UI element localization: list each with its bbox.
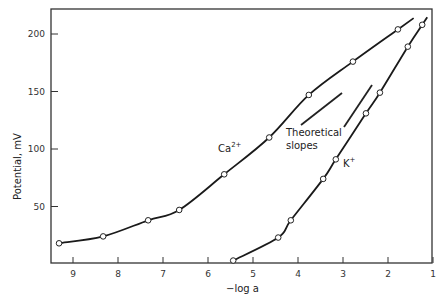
annotation-slopes: slopes bbox=[286, 140, 318, 151]
data-point bbox=[395, 27, 401, 33]
data-point bbox=[320, 176, 326, 182]
x-tick-label: 2 bbox=[385, 269, 391, 279]
data-point bbox=[100, 234, 106, 240]
x-tick-label: 8 bbox=[115, 269, 121, 279]
data-point bbox=[405, 44, 411, 50]
data-point bbox=[333, 157, 339, 163]
data-point bbox=[288, 218, 294, 224]
x-tick-label: 1 bbox=[430, 269, 436, 279]
y-tick-label: 150 bbox=[28, 87, 45, 97]
plot-frame bbox=[51, 9, 432, 263]
y-tick-label: 100 bbox=[28, 144, 45, 154]
y-axis-label: Potential, mV bbox=[12, 133, 23, 200]
data-point bbox=[56, 241, 62, 247]
data-point bbox=[419, 22, 425, 28]
data-point bbox=[230, 258, 236, 264]
x-axis-label: −log a bbox=[226, 283, 259, 294]
x-tick-label: 6 bbox=[205, 269, 211, 279]
data-point bbox=[377, 90, 383, 96]
data-point bbox=[145, 218, 151, 224]
data-point bbox=[363, 111, 369, 117]
annotation-theoretical: Theoretical bbox=[285, 127, 342, 138]
x-tick-label: 5 bbox=[250, 269, 256, 279]
ca-curve bbox=[59, 18, 414, 243]
data-point bbox=[306, 92, 312, 98]
k-curve bbox=[233, 17, 427, 260]
y-tick-label: 50 bbox=[34, 202, 46, 212]
y-tick-label: 200 bbox=[28, 29, 45, 39]
series-label-k: K+ bbox=[343, 156, 356, 169]
data-point bbox=[221, 172, 227, 178]
x-tick-label: 4 bbox=[295, 269, 301, 279]
chart: 987654321 50100150200 Theoretical slopes… bbox=[0, 0, 443, 305]
series-label-ca: Ca2+ bbox=[218, 141, 242, 154]
data-point bbox=[350, 59, 356, 65]
data-series bbox=[56, 17, 427, 263]
x-axis-ticks: 987654321 bbox=[70, 257, 436, 279]
x-tick-label: 9 bbox=[70, 269, 76, 279]
x-tick-label: 3 bbox=[340, 269, 346, 279]
data-point bbox=[275, 235, 281, 241]
x-tick-label: 7 bbox=[160, 269, 166, 279]
y-axis-ticks: 50100150200 bbox=[28, 29, 58, 212]
data-point bbox=[266, 135, 272, 141]
data-point bbox=[176, 207, 182, 213]
